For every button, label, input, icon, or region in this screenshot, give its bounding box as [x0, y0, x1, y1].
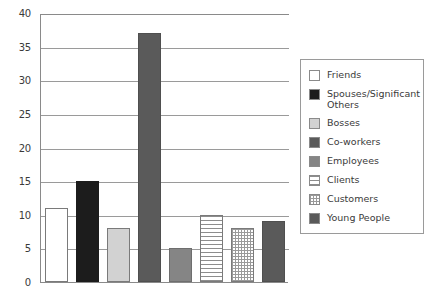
y-tick-label-25: 25 [19, 110, 31, 120]
legend-item-label: Customers [327, 193, 378, 204]
bar-customers [231, 228, 254, 282]
y-tick-label-20: 20 [19, 144, 31, 154]
bar-chart: 4035302520151050 FriendsSpouses/Signific… [0, 0, 437, 300]
legend-item[interactable]: Bosses [309, 117, 417, 129]
legend-swatch-icon [309, 194, 320, 205]
legend-swatch-icon [309, 175, 320, 186]
legend-item[interactable]: Employees [309, 155, 417, 167]
legend-item-label: Friends [327, 69, 361, 80]
legend-swatch-icon [309, 213, 320, 224]
y-tick-label-40: 40 [19, 9, 31, 19]
legend-swatch-icon [309, 137, 320, 148]
bar-spouses-significant-others [76, 181, 99, 282]
y-axis: 4035302520151050 [0, 14, 36, 283]
bar-young-people [262, 221, 285, 282]
bar-employees [169, 248, 192, 282]
bar-bosses [107, 228, 130, 282]
y-tick-label-30: 30 [19, 76, 31, 86]
legend-item[interactable]: Young People [309, 212, 417, 224]
legend-item-label: Employees [327, 155, 379, 166]
legend-item-label: Clients [327, 174, 359, 185]
plot-area [40, 14, 288, 283]
y-tick-label-15: 15 [19, 177, 31, 187]
y-tick-label-10: 10 [19, 211, 31, 221]
legend-item-label: Young People [327, 212, 390, 223]
legend-swatch-icon [309, 118, 320, 129]
legend-item[interactable]: Spouses/Significant Others [309, 88, 417, 110]
legend: FriendsSpouses/Significant OthersBossesC… [300, 59, 424, 234]
bar-friends [45, 208, 68, 282]
legend-item-label: Bosses [327, 117, 360, 128]
y-tick-label-35: 35 [19, 43, 31, 53]
bar-clients [200, 215, 223, 282]
legend-item[interactable]: Co-workers [309, 136, 417, 148]
legend-swatch-icon [309, 156, 320, 167]
legend-item-label: Co-workers [327, 136, 380, 147]
y-tick-label-5: 5 [25, 244, 31, 254]
bars-layer [41, 14, 288, 282]
bar-co-workers [138, 33, 161, 282]
y-tick-label-0: 0 [25, 278, 31, 288]
legend-item[interactable]: Clients [309, 174, 417, 186]
legend-swatch-icon [309, 70, 320, 81]
legend-swatch-icon [309, 89, 320, 100]
legend-item[interactable]: Customers [309, 193, 417, 205]
legend-item[interactable]: Friends [309, 69, 417, 81]
legend-item-label: Spouses/Significant Others [327, 88, 420, 110]
